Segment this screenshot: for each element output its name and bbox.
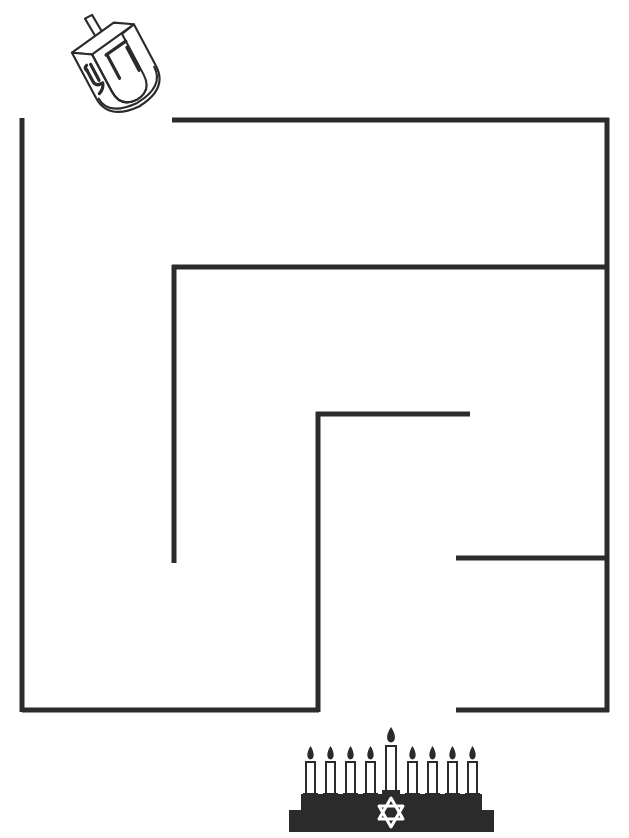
flame-3 bbox=[347, 746, 353, 760]
menorah-candles bbox=[303, 727, 480, 801]
flame-shamash bbox=[387, 727, 395, 743]
flame-1 bbox=[307, 746, 313, 760]
candle-1 bbox=[303, 746, 318, 801]
candle-shamash bbox=[382, 727, 400, 801]
menorah-icon: Nine-branch Hanukkah menorah with lit ca… bbox=[272, 724, 494, 836]
flame-6 bbox=[409, 746, 415, 760]
candle-9 bbox=[465, 746, 480, 801]
maze-walls bbox=[0, 0, 629, 838]
flame-7 bbox=[429, 746, 435, 760]
maze-page: Dreidel spinning top tilted to the left … bbox=[0, 0, 629, 838]
flame-2 bbox=[327, 746, 333, 760]
candle-4 bbox=[363, 746, 378, 801]
flame-9 bbox=[469, 746, 475, 760]
dreidel-icon: Dreidel spinning top tilted to the left … bbox=[52, 8, 174, 120]
flame-4 bbox=[367, 746, 373, 760]
candle-8 bbox=[445, 746, 460, 801]
flame-8 bbox=[449, 746, 455, 760]
candle-3 bbox=[343, 746, 358, 801]
dreidel-start-marker: Dreidel spinning top tilted to the left … bbox=[52, 8, 174, 120]
candle-7 bbox=[425, 746, 440, 801]
candle-6 bbox=[405, 746, 420, 801]
menorah-end-marker: Nine-branch Hanukkah menorah with lit ca… bbox=[272, 724, 494, 836]
candle-2 bbox=[323, 746, 338, 801]
